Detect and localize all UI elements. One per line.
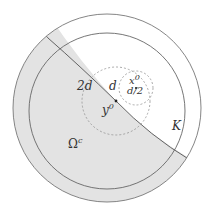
label-d-half: d/2 (127, 86, 143, 96)
diagram: 2d d x0 d/2 y0 K Ωc (0, 0, 217, 209)
label-x0-sup: 0 (135, 73, 140, 82)
label-y0: y0 (102, 103, 114, 116)
label-d: d (109, 80, 117, 92)
label-K: K (172, 120, 181, 132)
label-y0-base: y (102, 103, 109, 117)
point-y0 (115, 100, 118, 103)
label-omega-c: Ωc (68, 137, 82, 150)
label-2d: 2d (77, 80, 92, 92)
label-y0-sup: 0 (109, 102, 114, 111)
label-omega-sup: c (78, 136, 82, 145)
label-omega-base: Ω (68, 137, 78, 151)
